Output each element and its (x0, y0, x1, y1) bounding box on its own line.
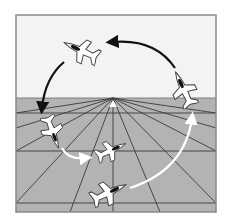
ground (16, 98, 216, 212)
loop-maneuver-diagram (0, 0, 227, 224)
